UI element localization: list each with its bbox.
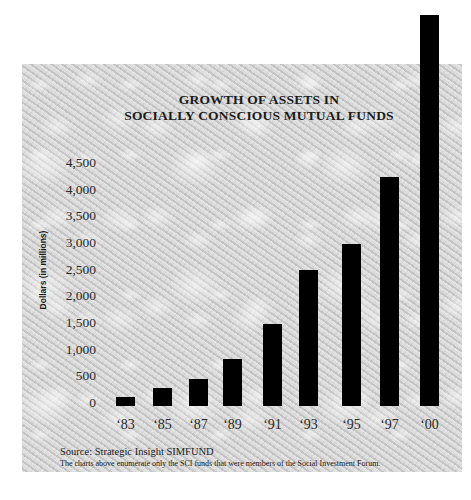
x-tick-label: ‘93 [294, 417, 324, 433]
x-tick-label: ‘87 [184, 417, 214, 433]
y-tick-label: 2,500 [50, 263, 96, 277]
x-tick-label: ‘91 [258, 417, 288, 433]
x-tick-label: ‘95 [337, 417, 367, 433]
bar [263, 324, 282, 406]
y-tick-label: 1,500 [50, 316, 96, 330]
chart-title-line-1: GROWTH OF ASSETS IN [59, 92, 459, 108]
bar [380, 177, 399, 406]
x-tick-label: ‘97 [375, 417, 405, 433]
bar [116, 397, 135, 406]
bar [420, 15, 439, 406]
bar [189, 379, 208, 406]
bar [223, 359, 242, 406]
source-credit: Source: Strategic Insight SIMFUND [60, 446, 214, 458]
y-tick-label: 4,000 [50, 183, 96, 197]
chart-title-line-2: SOCIALLY CONSCIOUS MUTUAL FUNDS [59, 108, 459, 124]
bar [153, 388, 172, 406]
footnote: The charts above enumerate only the SCI … [60, 459, 380, 469]
y-tick-label: 1,000 [50, 343, 96, 357]
chart-title: GROWTH OF ASSETS IN SOCIALLY CONSCIOUS M… [59, 92, 459, 124]
x-tick-label: ‘00 [415, 417, 445, 433]
bar [299, 270, 318, 406]
y-tick-label: 2,000 [50, 289, 96, 303]
y-tick-label: 0 [50, 396, 96, 410]
x-tick-label: ‘83 [111, 417, 141, 433]
y-tick-label: 4,500 [50, 156, 96, 170]
x-tick-label: ‘89 [218, 417, 248, 433]
y-axis-label: Dollars (in millions) [38, 231, 48, 310]
y-tick-label: 500 [50, 369, 96, 383]
x-tick-label: ‘85 [148, 417, 178, 433]
bar [342, 244, 361, 406]
y-tick-label: 3,000 [50, 236, 96, 250]
y-tick-label: 3,500 [50, 209, 96, 223]
